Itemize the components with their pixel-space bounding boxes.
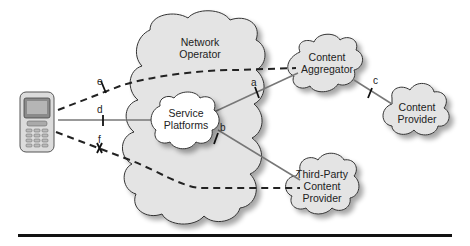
edge-label-c: c xyxy=(373,75,378,86)
third-party-label-2: Content xyxy=(304,180,341,192)
network-operator-label: Network xyxy=(181,36,220,48)
third-party-label-3: Provider xyxy=(302,192,342,204)
third-party-label: Third-Party xyxy=(296,168,349,180)
network-operator-label-2: Operator xyxy=(179,48,221,60)
service-platforms-label-2: Platforms xyxy=(164,119,208,131)
edge-label-b: b xyxy=(220,122,226,133)
content-aggregator-label-2: Aggregator xyxy=(301,63,353,75)
bottom-rule xyxy=(18,234,452,237)
content-provider-label: Content xyxy=(399,101,436,113)
edge-label-a: a xyxy=(251,77,257,88)
edge-label-e: e xyxy=(97,76,103,87)
content-provider-label-2: Provider xyxy=(397,113,437,125)
network-architecture-diagram: Network Operator Service Platforms Conte… xyxy=(0,0,470,246)
edge-label-f: f xyxy=(98,134,101,145)
edge-label-d: d xyxy=(97,104,103,115)
service-platforms-label: Service xyxy=(168,107,203,119)
mobile-handset-icon xyxy=(20,92,54,152)
content-aggregator-label: Content xyxy=(309,51,346,63)
